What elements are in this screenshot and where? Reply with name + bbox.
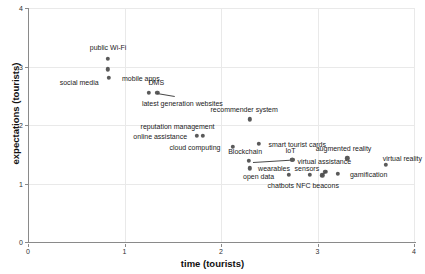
- x-tick: [318, 244, 319, 247]
- data-point-label: augmented reality: [316, 145, 372, 152]
- data-point[interactable]: [106, 57, 110, 61]
- data-point-label: open data: [243, 173, 274, 180]
- data-point-label: virtual reality: [383, 155, 422, 162]
- data-point-label: gamification: [350, 170, 387, 177]
- data-point-label: chatbots: [268, 182, 294, 189]
- y-axis-label: expectations (tourists): [10, 44, 21, 184]
- y-tick-label: 0: [14, 239, 23, 246]
- x-tick-label: 0: [26, 248, 30, 255]
- data-point[interactable]: [290, 157, 294, 161]
- x-tick: [125, 244, 126, 247]
- data-point[interactable]: [384, 163, 388, 167]
- data-point[interactable]: [308, 173, 312, 177]
- x-tick-label: 4: [412, 248, 416, 255]
- plot-area: public Wi-Fisocial mediamobile appsDMSla…: [28, 8, 414, 242]
- data-point-label: wearables: [258, 165, 290, 172]
- x-tick: [414, 244, 415, 247]
- x-tick-label: 2: [219, 248, 223, 255]
- data-point-label: virtual assistance: [297, 158, 351, 165]
- y-tick: [25, 67, 28, 68]
- y-tick-label: 4: [14, 5, 23, 12]
- x-axis-line: [28, 242, 416, 243]
- grid-line-horizontal: [28, 125, 414, 126]
- y-tick: [25, 8, 28, 9]
- x-tick: [221, 244, 222, 247]
- data-point-label: online assistance: [133, 132, 187, 139]
- data-point-label: IoT: [285, 147, 295, 154]
- scatter-chart-figure: public Wi-Fisocial mediamobile appsDMSla…: [0, 0, 425, 274]
- grid-line-vertical: [414, 8, 415, 242]
- x-tick-label: 1: [123, 248, 127, 255]
- x-axis-label: time (tourists): [0, 258, 425, 269]
- y-tick: [25, 125, 28, 126]
- data-point[interactable]: [106, 67, 110, 71]
- data-point-label: NFC beacons: [296, 181, 339, 188]
- data-point-label: reputation management: [141, 122, 215, 129]
- point-connector: [157, 93, 175, 97]
- data-point-label: DMS: [149, 79, 165, 86]
- point-connector: [321, 170, 327, 177]
- data-point-label: social media: [60, 78, 99, 85]
- data-point[interactable]: [247, 158, 251, 162]
- data-point-label: cloud computing: [169, 143, 220, 150]
- point-connector: [253, 160, 290, 163]
- y-tick: [25, 184, 28, 185]
- grid-line-horizontal: [28, 184, 414, 185]
- grid-line-horizontal: [28, 67, 414, 68]
- data-point[interactable]: [256, 142, 260, 146]
- grid-line-horizontal: [28, 8, 414, 9]
- data-point[interactable]: [195, 133, 199, 137]
- data-point-label: Blockchain: [228, 148, 262, 155]
- data-point[interactable]: [107, 75, 111, 79]
- data-point-label: public Wi-Fi: [90, 44, 127, 51]
- data-point[interactable]: [248, 166, 252, 170]
- data-point[interactable]: [286, 173, 290, 177]
- x-tick: [28, 244, 29, 247]
- y-axis-line: [28, 8, 29, 243]
- data-point-label: sensors: [295, 164, 320, 171]
- data-point[interactable]: [146, 91, 150, 95]
- data-point[interactable]: [200, 133, 204, 137]
- y-tick: [25, 242, 28, 243]
- data-point[interactable]: [336, 171, 340, 175]
- x-tick-label: 3: [316, 248, 320, 255]
- data-point[interactable]: [248, 117, 252, 121]
- data-point-label: recommender system: [211, 105, 278, 112]
